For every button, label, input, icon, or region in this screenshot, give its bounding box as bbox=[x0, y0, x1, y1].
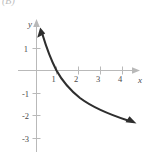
y-tick-label-neg2: -2 bbox=[22, 111, 29, 121]
x-tick-label-1: 1 bbox=[51, 74, 55, 84]
figure-panel: (B) 1 2 3 4 1 -1 -2 -3 y x bbox=[0, 0, 149, 153]
x-tick-label-2: 2 bbox=[74, 74, 78, 84]
y-tick-label-neg3: -3 bbox=[22, 134, 29, 144]
x-axis-label: x bbox=[137, 75, 142, 85]
y-axis-arrowhead-icon bbox=[33, 19, 40, 27]
graph-plot: 1 2 3 4 1 -1 -2 -3 y x bbox=[0, 0, 149, 153]
y-tick-label-neg1: -1 bbox=[22, 89, 29, 99]
y-axis-label: y bbox=[27, 19, 32, 29]
x-axis-arrowhead-icon bbox=[132, 67, 140, 74]
y-tick-label-1: 1 bbox=[24, 44, 28, 54]
x-tick-label-3: 3 bbox=[96, 74, 100, 84]
x-tick-label-4: 4 bbox=[118, 74, 123, 84]
curve-end-arrowhead-icon bbox=[126, 116, 137, 123]
